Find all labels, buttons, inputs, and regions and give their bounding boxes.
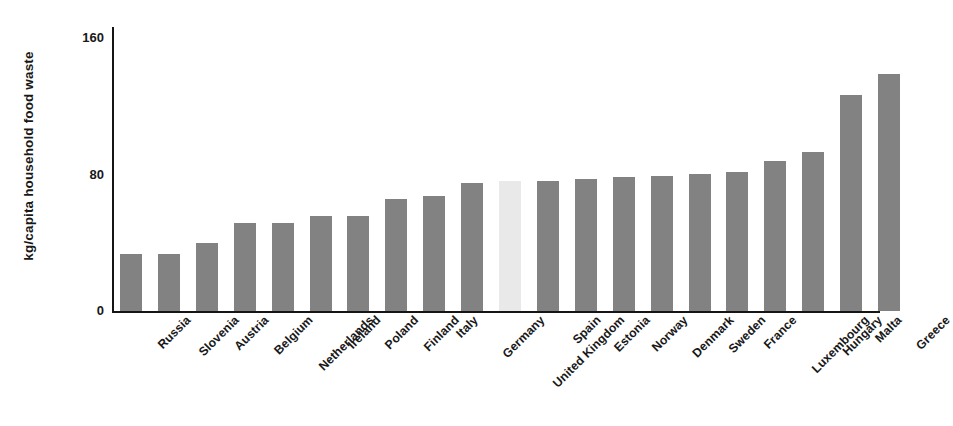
bar-slovenia <box>158 254 180 311</box>
y-axis-tick-label-80: 80 <box>58 168 104 181</box>
bar-netherlands <box>272 223 294 311</box>
bar-norway <box>613 177 635 311</box>
bar-hungary <box>802 152 824 311</box>
bar-united-kingdom <box>499 181 521 311</box>
bar-malta <box>840 95 862 311</box>
bar-ireland <box>310 216 332 311</box>
y-axis-tick-label-160: 160 <box>58 31 104 44</box>
bar-france <box>726 172 748 311</box>
x-axis-label-germany: Germany <box>500 313 548 361</box>
x-axis-label-slovenia: Slovenia <box>196 313 242 359</box>
bar-spain <box>537 181 559 311</box>
x-axis-label-belgium: Belgium <box>271 313 315 357</box>
bar-germany <box>461 183 483 311</box>
bar-luxembourg <box>764 161 786 311</box>
plot-area <box>112 27 880 311</box>
bar-russia <box>120 254 142 311</box>
bar-greece <box>878 74 900 311</box>
bar-estonia <box>575 179 597 311</box>
x-axis-label-russia: Russia <box>155 313 194 352</box>
x-axis-label-italy: Italy <box>453 313 480 340</box>
bar-sweden <box>689 174 711 311</box>
bar-finland <box>385 199 407 311</box>
bar-italy <box>423 196 445 311</box>
x-axis-label-greece: Greece <box>913 313 953 353</box>
x-axis-label-denmark: Denmark <box>689 313 736 360</box>
x-axis-label-france: France <box>761 313 800 352</box>
x-axis-tick-labels: RussiaSloveniaAustriaBelgiumNetherlandsI… <box>112 313 916 426</box>
y-axis-tick-label-0: 0 <box>58 304 104 317</box>
bar-belgium <box>234 223 256 311</box>
x-axis-label-norway: Norway <box>649 313 690 354</box>
bar-poland <box>347 216 369 311</box>
x-axis-label-poland: Poland <box>382 313 421 352</box>
y-axis-title: kg/capita household food waste <box>14 16 44 296</box>
bar-denmark <box>651 176 673 311</box>
bar-austria <box>196 243 218 311</box>
